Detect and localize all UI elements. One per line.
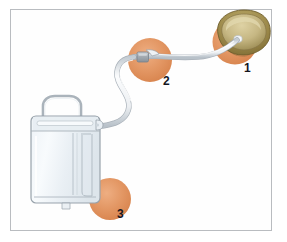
figure-canvas: 1 2 3 [0, 0, 287, 242]
diagram-artwork [0, 0, 287, 242]
bag-hanger-handle [43, 96, 81, 117]
label-3: 3 [117, 208, 124, 220]
urine-drainage-bag [31, 96, 103, 209]
label-2: 2 [163, 75, 170, 87]
label-1: 1 [244, 62, 251, 74]
bag-outlet-valve [62, 203, 70, 209]
